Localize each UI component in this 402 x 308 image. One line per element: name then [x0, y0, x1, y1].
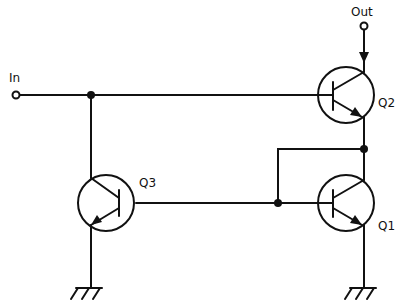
circuit-diagram: In Out Q2 Q3 Q1 — [0, 0, 402, 308]
q3-emitter-arrow-icon — [91, 215, 102, 225]
label-q2: Q2 — [378, 96, 395, 110]
ground-icon-q1 — [345, 288, 376, 299]
label-output: Out — [351, 5, 373, 19]
transistor-q3 — [78, 175, 134, 231]
label-input: In — [9, 71, 20, 85]
label-q1: Q1 — [378, 219, 395, 233]
output-current-arrow-icon — [359, 52, 369, 63]
input-terminal — [13, 92, 20, 99]
output-terminal — [361, 23, 368, 30]
ground-icon-q3 — [71, 288, 102, 299]
label-q3: Q3 — [139, 176, 156, 190]
